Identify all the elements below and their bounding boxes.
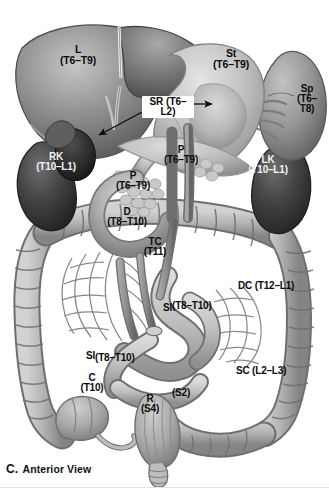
label-spleen-levels-line2: T8) bbox=[289, 104, 325, 114]
label-suprarenal-levels: (T6–L2) bbox=[161, 96, 187, 117]
label-spleen[interactable]: Sp (T6– T8) bbox=[289, 84, 325, 115]
label-small-intestine-upper-abbrev: SI bbox=[163, 302, 172, 313]
label-duodenum-levels: (T8–T10) bbox=[98, 217, 156, 227]
figure-caption: C. Anterior View bbox=[6, 459, 91, 477]
label-pancreas-body[interactable]: P (T6–T9) bbox=[155, 145, 207, 165]
label-suprarenal[interactable]: SR (T6–L2) bbox=[142, 96, 194, 118]
label-stomach-levels: (T6–T9) bbox=[203, 59, 259, 70]
label-transverse-colon[interactable]: TC (T11) bbox=[131, 237, 179, 257]
label-liver-levels: (T6–T9) bbox=[50, 55, 106, 66]
label-sigmoid-colon-levels: (L2–L3) bbox=[252, 365, 286, 376]
label-right-kidney-levels: (T10–L1) bbox=[25, 162, 87, 172]
label-liver[interactable]: L (T6–T9) bbox=[50, 44, 106, 65]
bottom-rule bbox=[0, 487, 329, 492]
label-transverse-colon-levels: (T11) bbox=[131, 247, 179, 257]
label-small-intestine-upper-levels: (T8–T10) bbox=[172, 300, 212, 311]
label-descending-colon-levels: (T12–L1) bbox=[255, 280, 295, 291]
label-rectum[interactable]: R (S4) bbox=[132, 394, 168, 414]
label-sigmoid-colon-abbrev: SC bbox=[236, 365, 250, 376]
label-right-kidney[interactable]: RK (T10–L1) bbox=[25, 152, 87, 172]
label-stomach[interactable]: St (T6–T9) bbox=[203, 48, 259, 69]
figure-canvas: L (T6–T9) St (T6–T9) Sp (T6– T8) SR (T6–… bbox=[0, 0, 329, 492]
label-rectum-levels: (S4) bbox=[132, 404, 168, 414]
label-left-kidney[interactable]: LK (T10–L1) bbox=[237, 155, 299, 175]
label-descending-colon[interactable]: DC (T12–L1) bbox=[238, 281, 326, 291]
label-small-intestine-upper[interactable]: SI(T8–T10) bbox=[163, 301, 237, 311]
label-small-intestine-lower-abbrev: SI bbox=[86, 350, 95, 361]
label-pancreas-head[interactable]: P (T6–T9) bbox=[107, 171, 159, 191]
label-pancreas-body-levels: (T6–T9) bbox=[155, 155, 207, 165]
label-descending-colon-abbrev: DC bbox=[238, 280, 252, 291]
label-small-intestine-lower[interactable]: SI(T8–T10) bbox=[86, 353, 162, 363]
label-cecum-levels: (T10) bbox=[73, 383, 111, 393]
label-cecum[interactable]: C (T10) bbox=[73, 373, 111, 393]
label-pancreas-head-levels: (T6–T9) bbox=[107, 181, 159, 191]
label-left-kidney-levels: (T10–L1) bbox=[237, 165, 299, 175]
label-small-intestine-lower-levels: (T8–T10) bbox=[95, 352, 135, 363]
figure-caption-letter: C. bbox=[6, 462, 18, 476]
label-sigmoid-colon[interactable]: SC (L2–L3) bbox=[236, 366, 320, 376]
label-duodenum[interactable]: D (T8–T10) bbox=[98, 207, 156, 227]
figure-caption-text: Anterior View bbox=[22, 463, 91, 475]
